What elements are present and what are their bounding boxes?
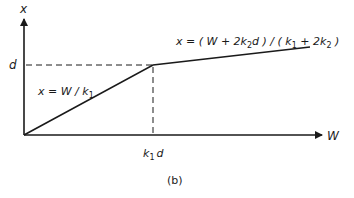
piecewise-linear-diagram: x W d k1d x = W / k1 x = ( W + 2k2d ) / … [0, 0, 354, 198]
x-axis-label: W [327, 129, 340, 143]
y-axis-label: x [19, 2, 28, 16]
figure-caption: (b) [167, 174, 183, 187]
diagram-canvas: x W d k1d x = W / k1 x = ( W + 2k2d ) / … [0, 0, 354, 198]
equation-left: x = W / k1 [37, 85, 94, 100]
x-tick-k1d: k1d [143, 147, 164, 162]
y-tick-d: d [9, 58, 17, 72]
equation-right: x = ( W + 2k2d ) / ( k1 + 2k2 ) [175, 35, 339, 50]
